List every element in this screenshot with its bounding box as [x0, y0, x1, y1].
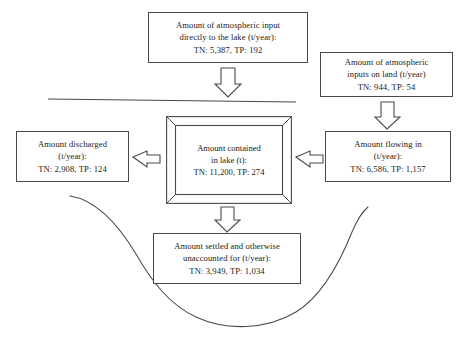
- lake-nutrient-balance-diagram: Amount of atmospheric input directly to …: [0, 0, 456, 346]
- node-line-1: Amount of atmospheric: [345, 56, 429, 68]
- node-atmospheric-inputs-on-land: Amount of atmospheric inputs on land (t/…: [320, 52, 453, 97]
- node-line-1: Amount contained: [197, 142, 261, 154]
- node-line-3: TN: 5,387, TP: 192: [194, 44, 263, 56]
- arrow-lake-to-discharged-left: [133, 151, 160, 167]
- arrow-atmospheric-to-lake-down: [215, 68, 241, 97]
- node-line-1: Amount of atmospheric input: [176, 19, 280, 31]
- node-amount-contained-in-lake: Amount contained in lake (t): TN: 11,200…: [166, 116, 292, 204]
- node-line-1: Amount discharged: [38, 138, 107, 150]
- arrow-lake-to-settled-down: [215, 207, 240, 232]
- node-line-3: TN: 944, TP: 54: [358, 81, 416, 93]
- node-amount-discharged: Amount discharged (t/year): TN: 2,908, T…: [16, 131, 129, 182]
- node-line-1: Amount flowing in: [354, 138, 422, 150]
- node-line-2: unaccounted for (t/year):: [183, 252, 271, 264]
- node-line-3: TN: 6,586, TP: 1,157: [350, 163, 425, 175]
- node-line-2: (t/year):: [374, 150, 403, 162]
- node-line-1: Amount settled and otherwise: [174, 240, 280, 252]
- node-amount-settled: Amount settled and otherwise unaccounted…: [153, 233, 301, 284]
- node-line-3: TN: 11,200, TP: 274: [194, 166, 265, 178]
- node-line-2: in lake (t):: [211, 154, 247, 166]
- arrow-flowing-in-to-lake-left: [296, 151, 323, 167]
- arrow-atmospheric-land-down: [375, 102, 400, 129]
- node-amount-flowing-in: Amount flowing in (t/year): TN: 6,586, T…: [325, 131, 451, 182]
- water-surface-line: [48, 99, 296, 102]
- node-atmospheric-input-to-lake: Amount of atmospheric input directly to …: [148, 12, 308, 63]
- lake-box-text: Amount contained in lake (t): TN: 11,200…: [175, 125, 283, 195]
- node-line-2: (t/year):: [58, 150, 87, 162]
- node-line-3: TN: 2,908, TP: 124: [38, 163, 107, 175]
- node-line-3: TN: 3,949, TP: 1,034: [189, 265, 264, 277]
- node-line-2: directly to the lake (t/year):: [179, 31, 276, 43]
- node-line-2: inputs on land (t/year): [347, 68, 425, 80]
